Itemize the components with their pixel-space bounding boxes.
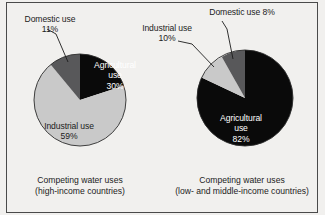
right-label-agricultural: Agricultural use 82% (206, 113, 276, 144)
right-label-industrial-line1: Industrial use (142, 23, 192, 33)
left-label-domestic-line2: 11% (42, 24, 58, 34)
left-label-agricultural-line3: 30% (107, 81, 124, 91)
right-caption-line2: (low- and middle-income countries) (175, 186, 309, 196)
right-label-agricultural-line1: Agricultural (220, 113, 262, 123)
left-label-agricultural-line1: Agricultural (94, 60, 136, 70)
left-label-domestic-line1: Domestic use (25, 14, 76, 24)
right-label-domestic-line1: Domestic use 8% (209, 7, 274, 17)
right-label-agricultural-line3: 82% (233, 134, 250, 144)
left-chart-caption: Competing water uses (high-income countr… (10, 175, 150, 196)
left-label-agricultural: Agricultural use 30% (84, 60, 146, 91)
left-label-agricultural-line2: use (108, 70, 122, 80)
right-leader-industrial (178, 41, 214, 67)
left-caption-line1: Competing water uses (37, 175, 123, 185)
right-label-domestic: Domestic use 8% (196, 7, 288, 17)
right-chart-caption: Competing water uses (low- and middle-in… (163, 175, 321, 196)
figure-canvas: Domestic use 11% Industrial use 59% Agri… (0, 0, 325, 215)
left-label-industrial-line1: Industrial use (44, 121, 94, 131)
left-label-domestic: Domestic use 11% (2, 14, 98, 35)
right-label-industrial: Industrial use 10% (131, 23, 203, 44)
left-caption-line2: (high-income countries) (35, 186, 125, 196)
right-label-agricultural-line2: use (234, 123, 248, 133)
left-label-industrial-line2: 59% (61, 131, 78, 141)
left-label-industrial: Industrial use 59% (32, 121, 106, 142)
right-caption-line1: Competing water uses (199, 175, 285, 185)
right-label-industrial-line2: 10% (159, 33, 176, 43)
